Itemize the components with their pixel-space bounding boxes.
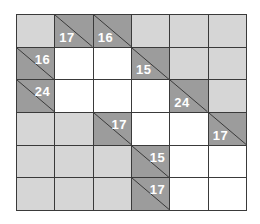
blocked-cell — [17, 15, 54, 47]
across-clue-number: 17 — [150, 183, 165, 196]
blocked-cell — [94, 146, 131, 178]
blocked-cell — [55, 113, 92, 145]
entry-cell[interactable] — [132, 80, 169, 112]
blocked-cell — [209, 80, 246, 112]
blocked-cell — [17, 178, 54, 210]
kakuro-grid: 17161615242417171517 — [16, 14, 247, 211]
blocked-cell — [209, 48, 246, 80]
blocked-cell — [209, 15, 246, 47]
down-clue-number: 17 — [59, 31, 74, 44]
clue-cell: 17 — [209, 113, 246, 145]
entry-cell[interactable] — [209, 146, 246, 178]
across-clue-number: 15 — [150, 151, 165, 164]
blocked-cell — [132, 15, 169, 47]
blocked-cell — [170, 15, 207, 47]
down-clue-number: 24 — [174, 96, 189, 109]
clue-cell: 15 — [132, 146, 169, 178]
entry-cell[interactable] — [170, 146, 207, 178]
entry-cell[interactable] — [94, 80, 131, 112]
entry-cell[interactable] — [209, 178, 246, 210]
blocked-cell — [17, 113, 54, 145]
clue-cell: 17 — [94, 113, 131, 145]
across-clue-number: 16 — [35, 53, 50, 66]
blocked-cell — [170, 48, 207, 80]
blocked-cell — [94, 178, 131, 210]
blocked-cell — [55, 146, 92, 178]
down-clue-number: 17 — [213, 129, 228, 142]
down-clue-number: 15 — [136, 63, 151, 76]
entry-cell[interactable] — [170, 178, 207, 210]
entry-cell[interactable] — [94, 48, 131, 80]
down-clue-number: 16 — [98, 31, 113, 44]
clue-cell: 16 — [17, 48, 54, 80]
clue-cell: 17 — [55, 15, 92, 47]
entry-cell[interactable] — [55, 80, 92, 112]
blocked-cell — [55, 178, 92, 210]
across-clue-number: 17 — [112, 118, 127, 131]
entry-cell[interactable] — [170, 113, 207, 145]
across-clue-number: 24 — [35, 85, 50, 98]
entry-cell[interactable] — [55, 48, 92, 80]
clue-cell: 16 — [94, 15, 131, 47]
clue-cell: 17 — [132, 178, 169, 210]
blocked-cell — [17, 146, 54, 178]
clue-cell: 24 — [17, 80, 54, 112]
entry-cell[interactable] — [132, 113, 169, 145]
clue-cell: 24 — [170, 80, 207, 112]
clue-cell: 15 — [132, 48, 169, 80]
